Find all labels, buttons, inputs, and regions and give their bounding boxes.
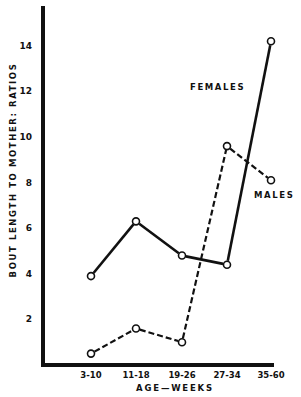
data-point-males [268, 177, 275, 184]
series-segment-males [140, 330, 178, 341]
data-point-males [179, 339, 186, 346]
data-point-females [133, 218, 140, 225]
series-segment-males [183, 150, 226, 338]
data-point-females [268, 38, 275, 45]
legend-label-females: FEMALES [190, 82, 245, 92]
series-segment-males [94, 330, 132, 351]
series-segment-females [186, 256, 223, 264]
data-point-males [88, 350, 95, 357]
x-axis-label: AGE—WEEKS [136, 383, 214, 393]
data-point-males [224, 143, 231, 150]
series-segment-females [139, 224, 179, 253]
data-point-females [88, 273, 95, 280]
data-point-females [224, 261, 231, 268]
data-point-females [179, 252, 186, 259]
series-segment-females [94, 224, 134, 273]
data-point-males [133, 325, 140, 332]
legend-label-males: MALES [254, 190, 294, 200]
